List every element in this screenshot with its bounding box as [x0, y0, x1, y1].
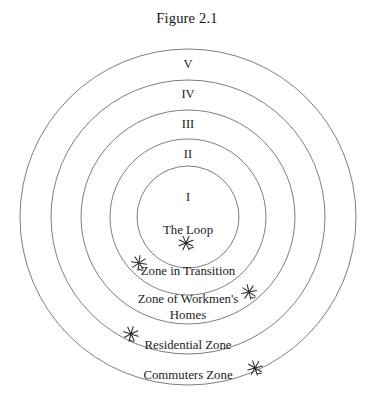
ring-numeral-i: I — [186, 190, 190, 204]
zone-label-zone-of-workmens-homes-line1: Zone of Workmen's — [138, 292, 239, 306]
ring-numeral-ii: II — [184, 147, 192, 161]
zone-circle-i — [137, 166, 239, 268]
zone-label-zone-in-transition: Zone in Transition — [141, 264, 236, 278]
star-mark-zone-of-workmens-homes — [241, 284, 258, 301]
zone-label-residential-zone: Residential Zone — [144, 338, 231, 352]
ring-numeral-iv: IV — [181, 87, 194, 101]
concentric-zone-diagram: V IV III II I The Loop Zone in Transitio… — [0, 0, 374, 411]
zone-label-the-loop: The Loop — [163, 223, 213, 237]
star-mark-residential-zone — [121, 324, 141, 344]
figure-page: Figure 2.1 V IV III II I The Loop Zone i… — [0, 0, 374, 411]
ring-numeral-v: V — [183, 57, 192, 71]
zone-label-commuters-zone: Commuters Zone — [143, 368, 233, 382]
ring-numeral-iii: III — [182, 117, 195, 131]
zone-label-zone-of-workmens-homes-line2: Homes — [170, 308, 206, 322]
